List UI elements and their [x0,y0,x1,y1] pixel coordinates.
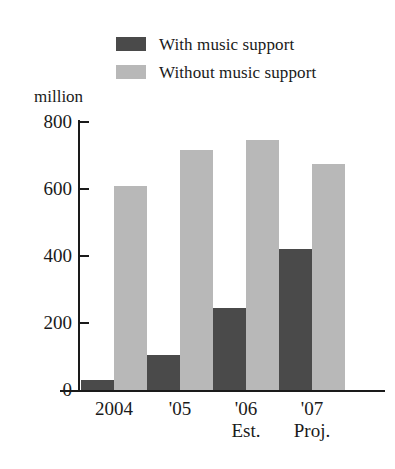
y-axis-tick-label-0: 0 [14,380,72,399]
y-axis-tick-label-600: 600 [14,179,72,198]
x-axis-label-07: '07 [301,398,323,419]
y-axis-tick-label-200: 200 [14,313,72,332]
y-axis-tick-label-400: 400 [14,246,72,265]
x-axis-group-07: '07 Proj. [272,398,352,443]
y-axis-tick-600 [80,188,89,190]
x-axis-label-2004: 2004 [95,398,133,419]
bar-07-with-music-support [279,249,312,390]
y-axis-tick-200 [80,322,89,324]
y-axis-tick-400 [80,255,89,257]
x-axis-line [60,390,385,392]
bar-05-with-music-support [147,355,180,390]
x-axis-sublabel-07: Proj. [272,420,352,442]
bar-07-without-music-support [312,164,345,390]
y-axis-tick-label-800: 800 [14,112,72,131]
y-axis-tick-800 [80,121,89,123]
bar-chart-figure: With music support Without music support… [0,0,395,469]
plot-area: 800 600 400 200 0 2004 '05 '06 Est. '07 [0,0,395,469]
bar-2004-without-music-support [114,186,147,390]
x-axis-label-06: '06 [235,398,257,419]
x-axis-label-05: '05 [169,398,191,419]
bar-06-without-music-support [246,140,279,390]
bar-2004-with-music-support [81,380,114,390]
bar-06-with-music-support [213,308,246,390]
bar-05-without-music-support [180,150,213,390]
